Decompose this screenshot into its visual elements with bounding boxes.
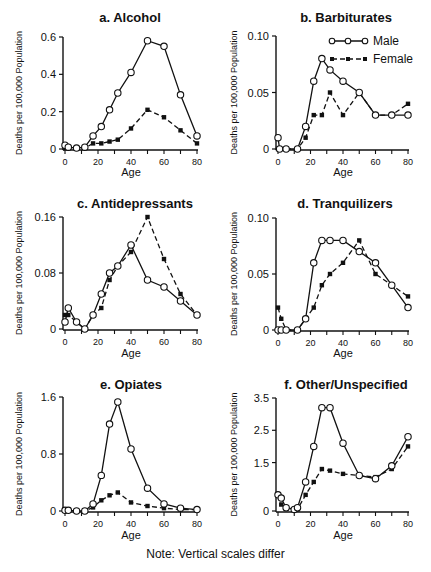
legend-female-marker	[330, 57, 334, 61]
legend-male-marker	[329, 38, 335, 44]
female-marker	[312, 480, 316, 484]
x-tick-label: 60	[370, 338, 380, 348]
male-marker	[177, 505, 183, 511]
y-tick-label: 0	[50, 323, 56, 335]
male-marker	[62, 319, 68, 325]
female-marker	[357, 238, 361, 242]
x-tick-label: 60	[159, 337, 169, 347]
x-tick-label: 60	[159, 519, 169, 529]
female-marker	[320, 283, 324, 287]
female-marker	[162, 257, 166, 261]
male-marker	[294, 146, 300, 152]
x-tick-label: 20	[93, 157, 103, 167]
panel-antidepressants: c. Antidepressants00.080.16020406080AgeD…	[14, 196, 202, 359]
y-tick-label: 0	[50, 143, 56, 155]
male-marker	[128, 446, 134, 452]
panel-barbiturates: b. Barbiturates00.050.10020406080AgeDeat…	[229, 10, 413, 178]
male-marker	[405, 304, 411, 310]
y-tick-label: 0.4	[41, 68, 56, 80]
male-marker	[161, 284, 167, 290]
x-tick-label: 40	[126, 519, 136, 529]
legend-male-marker	[362, 38, 368, 44]
y-tick-label: 2.5	[254, 424, 269, 436]
male-marker	[311, 260, 317, 266]
male-marker	[73, 145, 79, 151]
female-marker	[145, 504, 149, 508]
x-axis-label: Age	[333, 166, 353, 178]
male-marker	[294, 505, 300, 511]
male-marker	[194, 133, 200, 139]
female-marker	[312, 305, 316, 309]
female-marker	[162, 115, 166, 119]
x-axis-label: Age	[121, 166, 141, 178]
legend: MaleFemale	[329, 34, 413, 66]
female-marker	[406, 294, 410, 298]
female-marker	[116, 490, 120, 494]
legend-female-label: Female	[373, 52, 413, 66]
female-marker	[303, 136, 307, 140]
x-tick-label: 20	[305, 338, 315, 348]
male-marker	[144, 485, 150, 491]
male-marker	[389, 282, 395, 288]
male-marker	[65, 507, 71, 513]
female-series-line	[278, 446, 408, 509]
female-marker	[99, 498, 103, 502]
female-marker	[91, 141, 95, 145]
figure: a. Alcohol00.20.40.6020406080AgeDeaths p…	[0, 0, 431, 572]
female-marker	[116, 137, 120, 141]
female-marker	[129, 126, 133, 130]
y-axis-label: Deaths per 100,000 Population	[14, 392, 24, 516]
male-marker	[115, 90, 121, 96]
male-marker	[90, 133, 96, 139]
female-marker	[341, 472, 345, 476]
male-marker	[128, 242, 134, 248]
x-tick-label: 20	[93, 519, 103, 529]
y-tick-label: 0.16	[35, 211, 56, 223]
female-marker	[145, 108, 149, 112]
female-series-line	[65, 217, 197, 329]
female-marker	[129, 500, 133, 504]
y-tick-label: 0.08	[35, 267, 56, 279]
female-marker	[328, 272, 332, 276]
x-tick-label: 0	[62, 337, 67, 347]
male-marker	[327, 237, 333, 243]
male-marker	[405, 434, 411, 440]
male-marker	[302, 479, 308, 485]
male-marker	[106, 270, 112, 276]
x-tick-label: 60	[370, 157, 380, 167]
female-marker	[107, 139, 111, 143]
x-tick-label: 80	[403, 519, 413, 529]
male-marker	[90, 312, 96, 318]
female-marker	[129, 250, 133, 254]
panel-title: d. Tranquilizers	[297, 196, 392, 211]
y-tick-label: 0.8	[41, 448, 56, 460]
male-marker	[283, 505, 289, 511]
female-marker	[406, 444, 410, 448]
male-marker	[98, 472, 104, 478]
legend-female-marker	[363, 57, 367, 61]
male-marker	[294, 327, 300, 333]
male-marker	[278, 495, 284, 501]
male-marker	[319, 55, 325, 61]
male-marker	[128, 69, 134, 75]
y-tick-label: 3.5	[254, 392, 269, 404]
y-tick-label: 0	[263, 143, 269, 155]
x-axis-label: Age	[333, 347, 353, 359]
male-marker	[311, 443, 317, 449]
male-series-line	[65, 402, 197, 511]
y-tick-label: 1.5	[254, 457, 269, 469]
female-marker	[303, 493, 307, 497]
male-marker	[356, 248, 362, 254]
male-marker	[73, 319, 79, 325]
panel-title: c. Antidepressants	[77, 196, 193, 211]
panel-opiates: e. Opiates00.81.6020406080AgeDeaths per …	[14, 377, 202, 541]
male-marker	[372, 112, 378, 118]
female-marker	[276, 305, 280, 309]
x-tick-label: 20	[305, 519, 315, 529]
y-tick-label: 0.6	[41, 31, 56, 43]
x-tick-label: 0	[275, 157, 280, 167]
male-marker	[106, 107, 112, 113]
male-marker	[276, 146, 282, 152]
female-marker	[107, 493, 111, 497]
male-marker	[372, 476, 378, 482]
